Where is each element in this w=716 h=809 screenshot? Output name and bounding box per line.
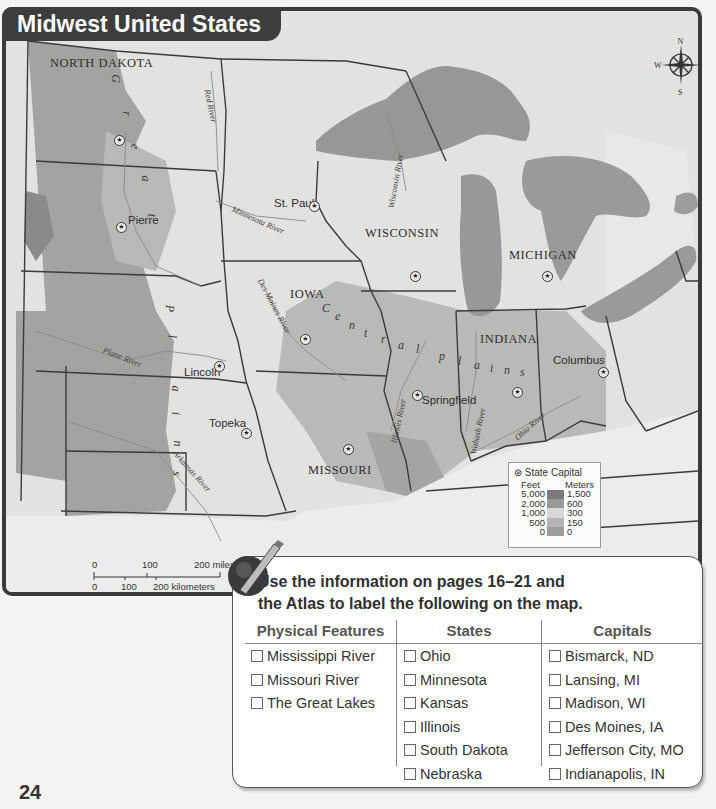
region-label-great-plains: t <box>144 214 159 217</box>
region-label-great-plains: e <box>127 144 142 149</box>
checkbox[interactable] <box>251 697 263 709</box>
checklist-item[interactable]: Lansing, MI <box>549 669 703 693</box>
checklist-item[interactable]: Nebraska <box>404 763 541 787</box>
checkbox[interactable] <box>549 721 561 733</box>
checklist-item[interactable]: Missouri River <box>251 669 396 693</box>
page-number: 24 <box>19 781 41 804</box>
capital-star-icon-des-moines: ★ <box>300 334 311 345</box>
region-label-central-plains: n <box>504 363 510 378</box>
compass-rose-icon: N W E S <box>654 35 702 97</box>
region-label-great-plains: l <box>164 335 179 338</box>
checkbox[interactable] <box>251 674 263 686</box>
activity-card: Use the information on pages 16–21 and t… <box>232 556 703 788</box>
region-label-great-plains: r <box>119 111 134 116</box>
region-label-central-plains: l <box>458 354 461 369</box>
state-label-wisconsin: WISCONSIN <box>365 226 439 241</box>
capital-star-icon-madison: ★ <box>410 271 421 282</box>
capital-star-icon: ★ <box>241 428 252 439</box>
region-label-great-plains: a <box>168 386 183 392</box>
capital-label-springfield: Springfield <box>422 394 476 406</box>
checkbox[interactable] <box>549 650 561 662</box>
svg-text:S: S <box>678 88 682 97</box>
checklist-item[interactable]: The Great Lakes <box>251 692 396 716</box>
checklist-item[interactable]: Des Moines, IA <box>549 716 703 740</box>
state-label-iowa: IOWA <box>290 287 325 302</box>
state-label-missouri: MISSOURI <box>308 463 372 478</box>
checklist-item[interactable]: Illinois <box>404 716 541 740</box>
checklist-item[interactable]: Kansas <box>404 692 541 716</box>
checkbox[interactable] <box>251 650 263 662</box>
checkbox[interactable] <box>404 744 416 756</box>
region-label-central-plains: r <box>381 332 386 347</box>
pencil-icon <box>226 540 286 600</box>
legend-elevation-ramp <box>547 490 564 536</box>
state-label-indiana: INDIANA <box>480 332 537 347</box>
scale-bar: 0 100 200 miles 0 100 200 kilometers <box>92 559 242 595</box>
scale-km-200: 200 kilometers <box>153 581 215 592</box>
region-label-great-plains: P <box>162 305 177 312</box>
checkbox[interactable] <box>549 674 561 686</box>
column-states: States Ohio Minnesota Kansas Illinois So… <box>397 620 541 786</box>
scale-miles-0: 0 <box>92 559 97 570</box>
checkbox[interactable] <box>549 768 561 780</box>
region-label-great-plains: n <box>170 441 185 447</box>
region-label-central-plains: a <box>398 338 404 353</box>
region-label-great-plains: G <box>108 74 123 83</box>
checklist-item[interactable]: Madison, WI <box>549 692 703 716</box>
svg-text:W: W <box>654 61 662 70</box>
state-label-michigan: MICHIGAN <box>509 248 577 263</box>
region-label-great-plains: a <box>138 176 153 182</box>
capital-star-icon: ★ <box>598 367 609 378</box>
column-physical-features: Physical Features Mississippi River Miss… <box>245 620 396 716</box>
legend-feet-values: 5,000 2,000 1,000 500 0 <box>513 489 545 537</box>
region-label-central-plains: p <box>439 349 445 364</box>
capital-star-icon: ★ <box>412 390 423 401</box>
checklist-item[interactable]: Mississippi River <box>251 645 396 669</box>
region-label-central-plains: l <box>416 342 419 357</box>
region-label-central-plains: a <box>474 358 480 373</box>
checklist-item[interactable]: Jefferson City, MO <box>549 739 703 763</box>
checklist-item[interactable]: Minnesota <box>404 669 541 693</box>
capital-label-columbus: Columbus <box>553 354 605 366</box>
region-label-central-plains: C <box>322 301 330 316</box>
scale-km-0: 0 <box>92 581 97 592</box>
region-label-central-plains: s <box>520 365 525 380</box>
checklist-item[interactable]: Indianapolis, IN <box>549 763 703 787</box>
checkbox[interactable] <box>404 650 416 662</box>
checklist-item[interactable]: Ohio <box>404 645 541 669</box>
capital-star-icon: ⊛ <box>514 467 525 478</box>
scale-miles-100: 100 <box>142 559 158 570</box>
column-header-states: States <box>397 620 541 642</box>
capital-star-icon: ★ <box>214 361 225 372</box>
checkbox[interactable] <box>404 697 416 709</box>
map-legend: ⊛ State Capital Feet Meters 5,000 2,000 … <box>508 462 601 548</box>
activity-instructions: Use the information on pages 16–21 and t… <box>258 571 583 615</box>
checkbox[interactable] <box>549 744 561 756</box>
checklist-item[interactable]: Bismarck, ND <box>549 645 703 669</box>
capital-star-icon-lansing: ★ <box>542 271 553 282</box>
region-label-central-plains: t <box>364 326 367 341</box>
column-capitals: Capitals Bismarck, ND Lansing, MI Madiso… <box>542 620 703 786</box>
scale-km-100: 100 <box>121 581 137 592</box>
checkbox[interactable] <box>404 768 416 780</box>
region-label-central-plains: e <box>335 309 340 324</box>
capital-label-topeka: Topeka <box>209 417 246 429</box>
map-title: Midwest United States <box>2 7 281 41</box>
capital-star-icon: ★ <box>309 201 320 212</box>
region-label-central-plains: n <box>349 318 355 333</box>
checkbox[interactable] <box>549 697 561 709</box>
svg-text:N: N <box>678 37 684 46</box>
capital-star-icon-bismarck: ★ <box>114 135 125 146</box>
region-label-great-plains: i <box>168 412 183 415</box>
checklist-item[interactable]: South Dakota <box>404 739 541 763</box>
region-label-great-plains: s <box>169 471 184 476</box>
capital-star-icon-jefferson-city: ★ <box>343 444 354 455</box>
legend-meters-values: 1,500 600 300 150 0 <box>567 489 591 537</box>
capital-star-icon: ★ <box>116 222 127 233</box>
state-label-north-dakota: NORTH DAKOTA <box>50 56 153 71</box>
checkbox[interactable] <box>404 721 416 733</box>
capital-star-icon-indianapolis: ★ <box>512 387 523 398</box>
column-header-capitals: Capitals <box>542 620 703 642</box>
svg-text:E: E <box>700 61 702 70</box>
checkbox[interactable] <box>404 674 416 686</box>
